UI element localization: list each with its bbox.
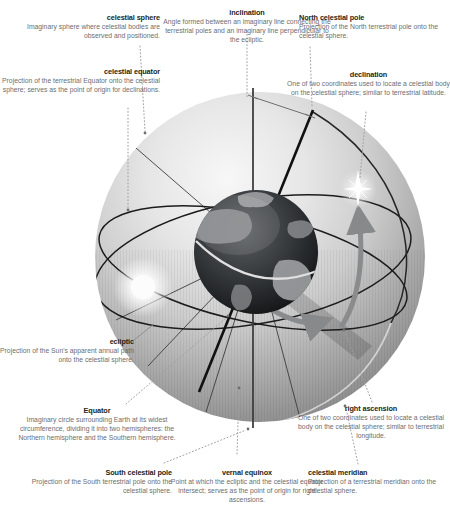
annotation-vernal-equinox: vernal equinox Point at which the eclipt… <box>167 468 327 504</box>
annotation-south-celestial-pole: South celestial pole Projection of the S… <box>8 468 172 496</box>
annotation-description: One of two coordinates used to locate a … <box>287 80 450 97</box>
celestial-sphere-infographic: celestial sphere Imaginary sphere where … <box>0 0 450 512</box>
annotation-celestial-meridian: celestial meridian Projection of a terre… <box>308 468 446 496</box>
annotation-description: One of two coordinates used to locate a … <box>292 414 450 440</box>
annotation-title: ecliptic <box>0 337 134 346</box>
annotation-north-celestial-pole: North celestial pole Projection of the N… <box>299 13 447 41</box>
annotation-right-ascension: right ascension One of two coordinates u… <box>292 404 450 440</box>
annotation-declination: declination One of two coordinates used … <box>287 70 450 98</box>
annotation-ecliptic: ecliptic Projection of the Sun's apparen… <box>0 337 134 365</box>
annotation-title: celestial meridian <box>308 468 446 477</box>
annotation-title: right ascension <box>292 404 450 413</box>
annotation-description: Imaginary circle surrounding Earth at it… <box>14 416 180 442</box>
annotation-description: Point at which the ecliptic and the cele… <box>167 478 327 504</box>
sun-glyph <box>113 257 173 317</box>
annotation-equator: Equator Imaginary circle surrounding Ear… <box>14 406 180 442</box>
annotation-title: South celestial pole <box>8 468 172 477</box>
annotation-celestial-equator: celestial equator Projection of the terr… <box>0 67 160 95</box>
annotation-description: Projection of the South terrestrial pole… <box>8 478 172 495</box>
annotation-description: Projection of the terrestrial Equator on… <box>0 77 160 94</box>
annotation-title: North celestial pole <box>299 13 447 22</box>
annotation-description: Imaginary sphere where celestial bodies … <box>0 23 160 40</box>
annotation-description: Projection of the North terrestrial pole… <box>299 23 447 40</box>
annotation-description: Projection of the Sun's apparent annual … <box>0 347 134 364</box>
annotation-description: Projection of a terrestrial meridian ont… <box>308 478 446 495</box>
annotation-title: celestial sphere <box>0 13 160 22</box>
star-glyph <box>339 170 377 208</box>
annotation-title: celestial equator <box>0 67 160 76</box>
annotation-celestial-sphere: celestial sphere Imaginary sphere where … <box>0 13 160 41</box>
annotation-title: declination <box>287 70 450 79</box>
annotation-title: Equator <box>14 406 180 415</box>
annotation-title: vernal equinox <box>167 468 327 477</box>
